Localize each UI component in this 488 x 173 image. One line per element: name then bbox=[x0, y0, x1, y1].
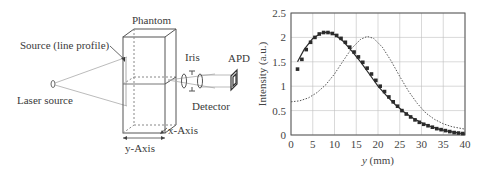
x-tick-label: 10 bbox=[329, 138, 341, 150]
y-tick-label: 1 bbox=[281, 80, 287, 92]
y-tick-label: 2 bbox=[281, 31, 287, 43]
x-tick-label: 0 bbox=[288, 138, 294, 150]
y-tick-label: 0 bbox=[281, 129, 287, 141]
y-tick-label: 1.5 bbox=[272, 56, 286, 68]
x-tick-label: 5 bbox=[310, 138, 316, 150]
y-tick-label: 0.5 bbox=[272, 105, 286, 117]
data-marker bbox=[300, 58, 304, 62]
fit-curve bbox=[298, 32, 465, 134]
x-tick-label: 35 bbox=[438, 138, 450, 150]
data-marker bbox=[296, 67, 300, 71]
x-tick-label: 15 bbox=[351, 138, 363, 150]
x-tick-label: 25 bbox=[394, 138, 406, 150]
y-axis-title: Intensity (a.u.) bbox=[256, 41, 269, 106]
intensity-chart: 051015202530354000.511.522.5y (mm)Intens… bbox=[0, 0, 488, 173]
x-tick-label: 20 bbox=[373, 138, 385, 150]
x-tick-label: 40 bbox=[460, 138, 472, 150]
y-tick-label: 2.5 bbox=[272, 7, 286, 19]
x-axis-title: y (mm) bbox=[361, 154, 394, 167]
x-tick-label: 30 bbox=[416, 138, 428, 150]
